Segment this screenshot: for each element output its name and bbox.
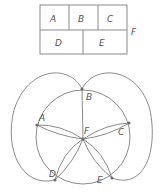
region-label-d: D [55, 38, 62, 48]
vertex-label-f: F [84, 126, 90, 136]
vertex-label-d: D [49, 169, 56, 179]
dual-graph: A B C D E F [11, 73, 152, 185]
vertex-label-e: E [97, 175, 103, 185]
edge-f-e-2 [83, 139, 112, 178]
diagram-canvas: A B C D E F A B C [0, 0, 160, 194]
vertex-label-b: B [86, 92, 92, 102]
region-map: A B C D E F [40, 5, 137, 54]
vertex-e [111, 177, 114, 180]
region-label-e: E [99, 38, 105, 48]
edge-f-d-1 [55, 139, 83, 180]
edge-f-a-1 [37, 125, 83, 139]
vertex-a [36, 124, 39, 127]
region-label-a: A [49, 14, 56, 24]
edge-b-d-outer [11, 73, 82, 181]
vertex-label-a: A [38, 113, 45, 123]
region-label-f: F [131, 27, 137, 37]
edge-f-b [82, 89, 83, 139]
vertex-c [128, 122, 131, 125]
edge-f-a-2 [37, 125, 83, 139]
vertex-label-c: C [118, 127, 125, 137]
edge-f-e-1 [83, 139, 112, 178]
vertex-f [82, 138, 85, 141]
region-label-c: C [107, 14, 114, 24]
vertex-b [81, 88, 84, 91]
region-label-b: B [78, 14, 84, 24]
edge-f-d-2 [55, 139, 83, 180]
